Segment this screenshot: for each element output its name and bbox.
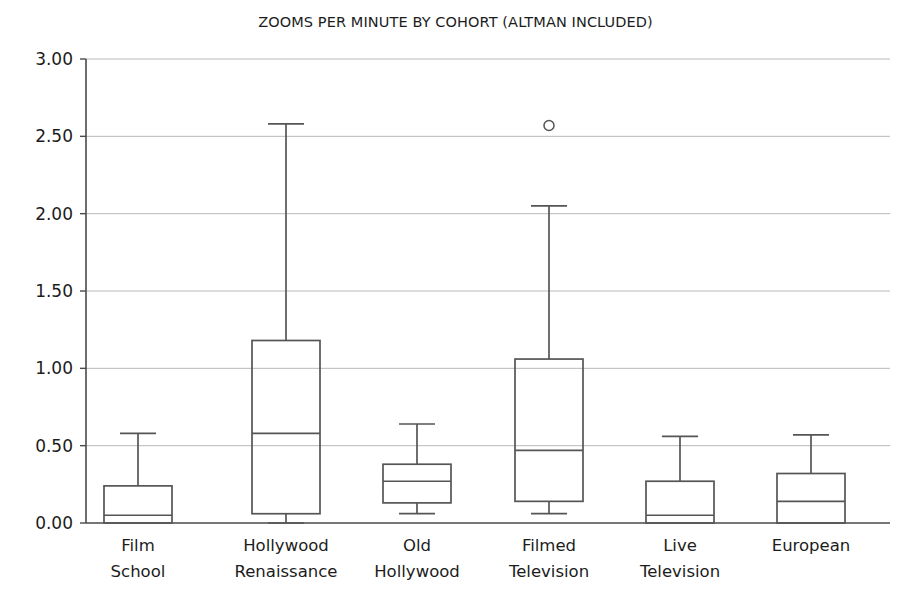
gridlines: [86, 59, 890, 446]
box-plot-group: [252, 124, 320, 523]
x-tick-label-line: Old: [403, 536, 431, 555]
box-plots: [104, 121, 845, 523]
x-tick-label: European: [772, 536, 851, 555]
y-tick-label: 1.50: [35, 281, 73, 301]
box-plot-group: [104, 433, 172, 523]
y-tick-label: 2.50: [35, 126, 73, 146]
x-axis-labels: FilmSchoolHollywoodRenaissanceOldHollywo…: [111, 536, 851, 581]
x-tick-label-line: Live: [663, 536, 697, 555]
y-axis-ticks: 0.000.501.001.502.002.503.00: [35, 49, 86, 533]
box-plot-group: [383, 424, 451, 514]
box-rect: [646, 481, 714, 523]
box-plot-group: [777, 435, 845, 523]
x-tick-label-line: Television: [639, 562, 720, 581]
y-tick-label: 1.00: [35, 358, 73, 378]
x-tick-label: HollywoodRenaissance: [234, 536, 337, 581]
x-tick-label-line: European: [772, 536, 851, 555]
y-tick-label: 3.00: [35, 49, 73, 69]
x-tick-label-line: Film: [121, 536, 155, 555]
box-rect: [104, 486, 172, 523]
box-rect: [777, 474, 845, 523]
x-tick-label-line: School: [111, 562, 166, 581]
x-tick-label-line: Television: [508, 562, 589, 581]
x-tick-label-line: Renaissance: [234, 562, 337, 581]
y-tick-label: 0.00: [35, 513, 73, 533]
y-tick-label: 2.00: [35, 204, 73, 224]
boxplot-chart: ZOOMS PER MINUTE BY COHORT (ALTMAN INCLU…: [0, 0, 911, 608]
box-rect: [383, 464, 451, 503]
box-rect: [252, 340, 320, 513]
x-tick-label-line: Hollywood: [243, 536, 329, 555]
x-tick-label: FilmSchool: [111, 536, 166, 581]
x-tick-label-line: Filmed: [522, 536, 576, 555]
outlier-point: [544, 121, 554, 131]
x-tick-label: OldHollywood: [374, 536, 460, 581]
box-plot-group: [515, 121, 583, 514]
y-tick-label: 0.50: [35, 436, 73, 456]
plot-area: 0.000.501.001.502.002.503.00 FilmSchoolH…: [0, 0, 911, 608]
x-tick-label: LiveTelevision: [639, 536, 720, 581]
x-tick-label: FilmedTelevision: [508, 536, 589, 581]
x-tick-label-line: Hollywood: [374, 562, 460, 581]
box-rect: [515, 359, 583, 501]
box-plot-group: [646, 436, 714, 523]
